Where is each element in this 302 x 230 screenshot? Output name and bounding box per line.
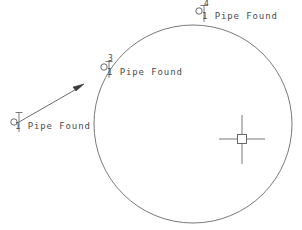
survey-drawing-canvas: 1 Pipe Found 3 1 Pipe Found 4 1 Pipe Fou…	[0, 0, 302, 230]
pipe-marker-3-label: 1 Pipe Found	[107, 68, 183, 77]
center-point-monument	[219, 115, 265, 164]
property-boundary-arc	[94, 25, 292, 223]
pipe-marker-4-number: 4	[204, 0, 209, 8]
pipe-marker-1-label: 1 Pipe Found	[15, 122, 91, 131]
leader-arrow-shaft	[19, 87, 80, 122]
monument-square	[238, 135, 247, 144]
cad-drawing-vector-layer	[0, 0, 302, 230]
pipe-marker-3-number: 3	[108, 55, 113, 63]
pipe-marker-4-label: 1 Pipe Found	[202, 12, 278, 21]
